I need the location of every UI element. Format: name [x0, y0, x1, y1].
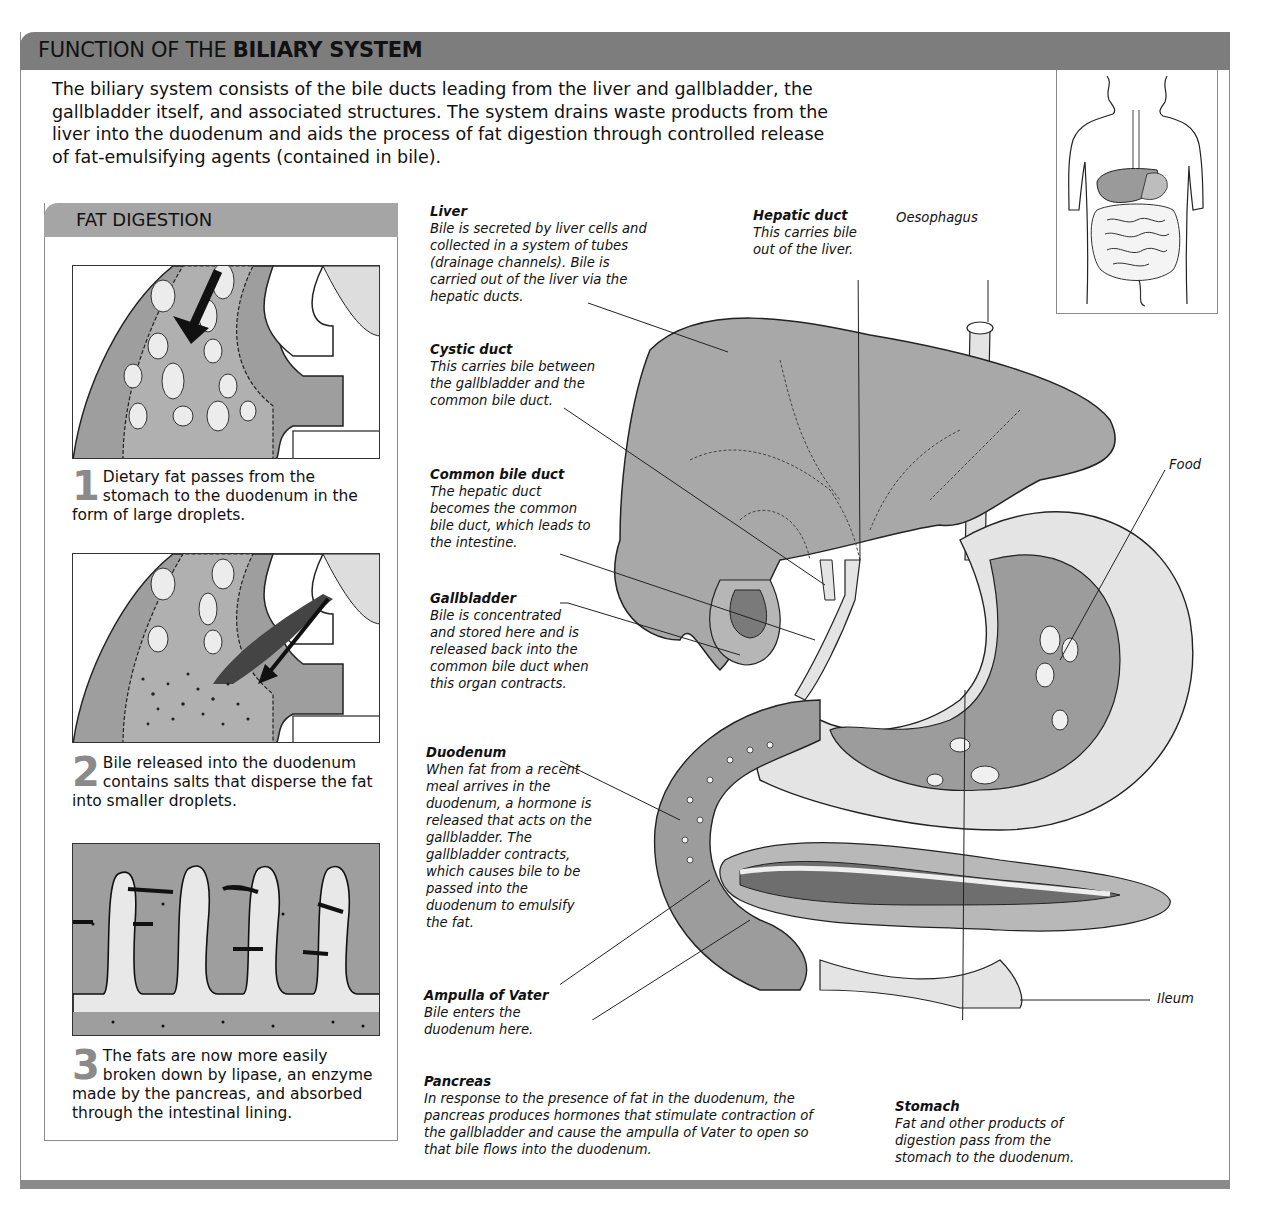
- label-liver-title: Liver: [430, 203, 650, 220]
- step-2-number: 2: [72, 755, 100, 789]
- label-liver: Liver Bile is secreted by liver cells an…: [430, 203, 650, 305]
- step-2-caption: 2 Bile released into the duodenum contai…: [72, 754, 382, 811]
- body-silhouette-icon: [1057, 70, 1217, 312]
- bottom-bar: [20, 1180, 1230, 1189]
- step-1-illustration: [72, 265, 380, 459]
- step-3-number: 3: [72, 1048, 100, 1082]
- liver-stomach-pancreas-illustration: [560, 280, 1240, 1020]
- biliary-anatomy-diagram: [560, 280, 1240, 1020]
- step-1-text: Dietary fat passes from the stomach to t…: [72, 468, 358, 524]
- label-oesophagus: Oesophagus: [896, 209, 978, 226]
- label-ileum-title: Ileum: [1157, 991, 1194, 1006]
- intro-paragraph: The biliary system consists of the bile …: [52, 78, 842, 168]
- label-pancreas: Pancreas In response to the presence of …: [424, 1073, 824, 1158]
- label-ampulla-text: Bile enters the duodenum here.: [424, 1005, 533, 1037]
- page-title: FUNCTION OF THE BILIARY SYSTEM: [38, 38, 422, 62]
- label-duodenum-text: When fat from a recent meal arrives in t…: [426, 762, 592, 930]
- label-liver-text: Bile is secreted by liver cells and coll…: [430, 221, 647, 304]
- fat-digestion-title: FAT DIGESTION: [76, 209, 212, 230]
- label-gallbladder: Gallbladder Bile is concentrated and sto…: [430, 590, 590, 692]
- label-stomach: Stomach Fat and other products of digest…: [895, 1098, 1095, 1166]
- label-ampulla-of-vater: Ampulla of Vater Bile enters the duodenu…: [424, 987, 574, 1038]
- label-common-bile-duct: Common bile duct The hepatic duct become…: [430, 466, 595, 551]
- label-gallbladder-title: Gallbladder: [430, 590, 590, 607]
- title-bold: BILIARY SYSTEM: [233, 38, 423, 62]
- label-cystic-duct: Cystic duct This carries bile between th…: [430, 341, 620, 409]
- label-pancreas-text: In response to the presence of fat in th…: [424, 1091, 813, 1157]
- label-food-title: Food: [1169, 457, 1201, 472]
- label-common-bile-duct-text: The hepatic duct becomes the common bile…: [430, 484, 591, 550]
- label-ampulla-title: Ampulla of Vater: [424, 987, 574, 1004]
- label-stomach-title: Stomach: [895, 1098, 1095, 1115]
- label-common-bile-duct-title: Common bile duct: [430, 466, 595, 483]
- label-gallbladder-text: Bile is concentrated and stored here and…: [430, 608, 589, 691]
- step-3-text: The fats are now more easily broken down…: [72, 1047, 373, 1122]
- label-food: Food: [1169, 456, 1201, 473]
- label-hepatic-duct-text: This carries bile out of the liver.: [753, 225, 857, 257]
- label-cystic-duct-title: Cystic duct: [430, 341, 620, 358]
- step-3-illustration: [72, 843, 380, 1036]
- step-1-caption: 1 Dietary fat passes from the stomach to…: [72, 468, 382, 525]
- step-2-text: Bile released into the duodenum contains…: [72, 754, 373, 810]
- label-oesophagus-title: Oesophagus: [896, 210, 978, 225]
- label-cystic-duct-text: This carries bile between the gallbladde…: [430, 359, 595, 408]
- step-1-number: 1: [72, 469, 100, 503]
- label-pancreas-title: Pancreas: [424, 1073, 824, 1090]
- label-stomach-text: Fat and other products of digestion pass…: [895, 1116, 1074, 1165]
- label-duodenum: Duodenum When fat from a recent meal arr…: [426, 744, 596, 931]
- label-hepatic-duct-title: Hepatic duct: [753, 207, 878, 224]
- label-ileum: Ileum: [1157, 990, 1194, 1007]
- body-location-inset: [1056, 70, 1218, 314]
- label-hepatic-duct: Hepatic duct This carries bile out of th…: [753, 207, 878, 258]
- label-duodenum-title: Duodenum: [426, 744, 596, 761]
- step-3-caption: 3 The fats are now more easily broken do…: [72, 1047, 382, 1123]
- title-regular: FUNCTION OF THE: [38, 38, 233, 62]
- step-2-illustration: [72, 553, 380, 743]
